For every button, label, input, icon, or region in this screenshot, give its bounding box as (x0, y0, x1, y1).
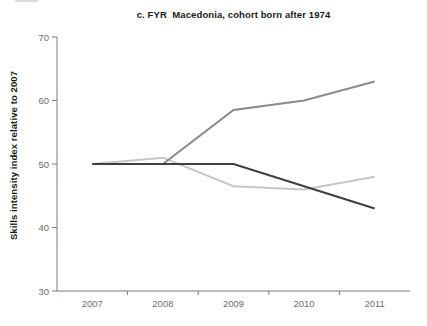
y-tick-label: 60 (38, 95, 49, 106)
medium-gray-series (92, 81, 374, 164)
x-tick-label: 2011 (364, 298, 384, 309)
y-tick-label: 30 (38, 286, 49, 297)
line-chart: 304050607020072008200920102011 (0, 0, 427, 326)
y-tick-label: 70 (38, 32, 49, 43)
x-tick-label: 2010 (294, 298, 315, 309)
y-tick-label: 50 (38, 159, 49, 170)
y-tick-label: 40 (38, 222, 49, 233)
light-gray-series (92, 158, 374, 190)
chart-figure: c. FYR Macedonia, cohort born after 1974… (0, 0, 427, 326)
x-tick-label: 2009 (223, 298, 244, 309)
x-tick-label: 2008 (152, 298, 173, 309)
x-tick-label: 2007 (82, 298, 103, 309)
